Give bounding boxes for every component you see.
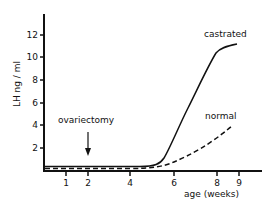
castrated-label: castrated bbox=[204, 29, 247, 39]
y-tick-label: 10 bbox=[27, 52, 39, 62]
x-tick-label: 6 bbox=[171, 178, 177, 188]
ovariectomy-label: ovariectomy bbox=[58, 115, 115, 125]
series-normal bbox=[45, 125, 233, 169]
y-tick-labels: 2 4 6 8 10 12 bbox=[27, 30, 39, 153]
x-axis-label: age (weeks) bbox=[184, 189, 239, 199]
x-tick-label: 2 bbox=[85, 178, 91, 188]
y-tick-label: 8 bbox=[32, 75, 38, 85]
y-tick-label: 4 bbox=[32, 120, 38, 130]
series-castrated bbox=[45, 44, 237, 167]
chart: 2 4 6 8 10 12 1 2 4 6 8 9 age (weeks) LH… bbox=[0, 0, 274, 211]
y-tick-label: 2 bbox=[32, 143, 38, 153]
down-arrow-icon bbox=[85, 148, 91, 156]
x-tick-label: 9 bbox=[236, 178, 242, 188]
y-tick-label: 12 bbox=[27, 30, 38, 40]
y-tick-label: 6 bbox=[32, 98, 38, 108]
x-tick-label: 8 bbox=[214, 178, 220, 188]
x-tick-labels: 1 2 4 6 8 9 bbox=[63, 178, 242, 188]
x-tick-label: 4 bbox=[127, 178, 133, 188]
x-tick-label: 1 bbox=[63, 178, 69, 188]
y-axis-label: LH ng / ml bbox=[12, 61, 22, 107]
normal-label: normal bbox=[205, 111, 237, 121]
